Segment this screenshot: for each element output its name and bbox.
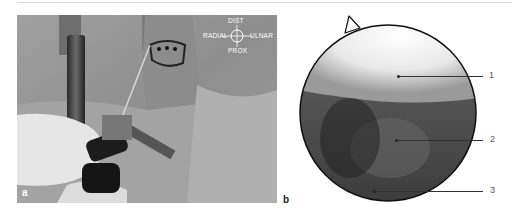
arthroscopic-view-image [290,8,490,213]
panel-b-label: b [283,194,289,205]
orientation-dist: DIST [228,17,244,24]
top-rule [17,2,512,3]
orientation-prox: PROX [228,47,247,54]
callout-2-number: 2 [490,134,495,144]
callout-1-number: 1 [489,70,494,80]
orientation-ulnar: ULNAR [250,32,273,39]
callout-3-number: 3 [490,185,495,195]
callout-3-line [375,191,483,192]
crosshair-icon [222,25,252,47]
callout-2-line [397,140,483,141]
panel-a-label: a [22,187,28,198]
callout-1-line [399,76,483,77]
panel-a-photo: DIST RADIAL ULNAR PROX a [17,15,277,203]
